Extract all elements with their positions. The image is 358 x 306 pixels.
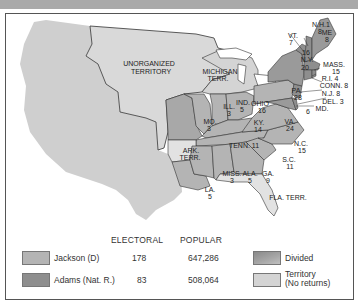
election-map: UNORGANIZED TERRITORY MICHIGAN TERR. ARK…	[6, 14, 352, 232]
label-md-votes: 6	[306, 108, 310, 115]
legend-jackson-popular: 647,286	[188, 253, 219, 263]
label-tenn: TENN. 11	[229, 142, 259, 149]
label-mo: MO.	[203, 118, 216, 125]
legend-adams-popular: 508,064	[188, 275, 219, 285]
label-pa: PA.	[292, 87, 303, 94]
label-mass-votes: 15	[332, 68, 340, 75]
label-vt-votes: 7	[289, 39, 293, 46]
label-miss: MISS.	[222, 170, 241, 177]
label-ala-votes: 5	[248, 177, 252, 184]
label-ill-votes: 3	[227, 110, 231, 117]
label-sc-votes: 11	[286, 163, 293, 170]
label-pa-votes: 28	[294, 94, 302, 101]
swatch-jackson	[22, 251, 50, 265]
label-ri: R.I. 4	[322, 75, 339, 82]
label-ga: GA.	[262, 170, 274, 177]
label-ga-votes: 9	[266, 177, 270, 184]
label-ny-votes: 20	[301, 64, 309, 71]
state-conn	[304, 70, 312, 80]
label-ny: N.Y.	[301, 56, 314, 63]
label-michigan-2: TERR.	[208, 75, 229, 82]
label-fla: FLA. TERR.	[269, 194, 307, 201]
label-ky: KY.	[254, 119, 264, 126]
label-miss-votes: 3	[230, 177, 234, 184]
legend-territory: Territory (No returns)	[285, 270, 330, 288]
label-nc: N.C.	[294, 140, 308, 147]
label-me-extra: 1	[326, 21, 330, 28]
label-unorganized-1: UNORGANIZED	[123, 60, 175, 67]
legend-adams-name: Adams (Nat. R.)	[54, 275, 115, 285]
legend: ELECTORAL POPULAR Jackson (D) 178 647,28…	[6, 232, 352, 298]
legend-header-popular: POPULAR	[180, 235, 222, 245]
label-unorganized-2: TERRITORY	[131, 68, 172, 75]
label-michigan-1: MICHIGAN	[203, 68, 238, 75]
label-del: DEL. 3	[322, 98, 344, 105]
label-conn: CONN. 8	[320, 82, 349, 89]
label-nh: N.H.	[312, 21, 326, 28]
label-ohio: OHIO	[251, 100, 269, 107]
label-md: MD.	[316, 105, 329, 112]
label-ark-1: ARK.	[183, 147, 199, 154]
label-ind-votes: 5	[240, 106, 244, 113]
label-me: ME	[322, 29, 333, 36]
label-me-votes: 8	[325, 36, 329, 43]
legend-divided: Divided	[285, 253, 313, 263]
label-va-votes: 24	[286, 125, 294, 132]
label-mass: MASS.	[323, 61, 345, 68]
label-la-votes: 5	[208, 193, 212, 200]
label-mo-votes: 3	[207, 125, 211, 132]
label-sc: S.C.	[282, 156, 296, 163]
label-nc-votes: 15	[298, 147, 306, 154]
label-ohio-votes: 16	[258, 107, 266, 114]
label-ala: ALA.	[242, 170, 257, 177]
legend-header-electoral: ELECTORAL	[111, 235, 163, 245]
label-nj: N.J. 8	[322, 90, 340, 97]
label-ny-extra: 16	[302, 49, 310, 56]
legend-adams-electoral: 83	[137, 275, 146, 285]
legend-jackson-electoral: 178	[132, 253, 146, 263]
label-ark-2: TERR.	[180, 154, 201, 161]
swatch-territory	[253, 273, 281, 287]
swatch-divided	[253, 251, 281, 265]
label-vt: VT.	[288, 32, 298, 39]
label-ind: IND.	[236, 99, 250, 106]
legend-territory-line2: (No returns)	[285, 279, 330, 288]
top-banner	[0, 0, 358, 9]
label-nh-votes: 8	[318, 28, 322, 35]
state-ri	[312, 70, 316, 78]
swatch-adams	[22, 273, 50, 287]
label-la: LA.	[205, 186, 216, 193]
label-ky-votes: 14	[254, 126, 262, 133]
label-va: VA.	[285, 118, 296, 125]
legend-jackson-name: Jackson (D)	[54, 253, 99, 263]
label-ill: ILL.	[223, 103, 235, 110]
